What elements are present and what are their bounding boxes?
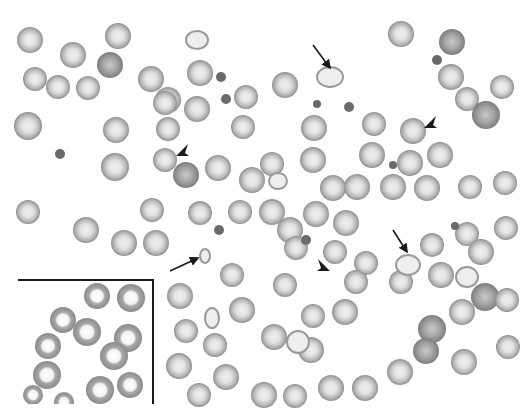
red-blood-cell — [153, 91, 177, 115]
red-blood-cell — [352, 375, 378, 401]
red-blood-cell — [439, 29, 465, 55]
red-blood-cell — [414, 175, 440, 201]
micrograph-canvas — [0, 0, 526, 412]
inset-red-blood-cell — [117, 372, 143, 398]
red-blood-cell — [187, 60, 213, 86]
inset-panel — [18, 280, 153, 412]
red-blood-cell — [303, 201, 329, 227]
platelet — [451, 222, 459, 230]
blood-smear-micrograph — [0, 0, 526, 412]
red-blood-cell — [228, 200, 252, 224]
red-blood-cell — [138, 66, 164, 92]
red-blood-cell — [323, 240, 347, 264]
inset-red-blood-cell — [100, 342, 128, 370]
red-blood-cell — [344, 270, 368, 294]
misshapen-cell-2 — [205, 308, 219, 328]
red-blood-cell — [387, 359, 413, 385]
red-blood-cell — [153, 148, 177, 172]
inset-red-blood-cell — [117, 284, 145, 312]
platelet — [216, 72, 226, 82]
inset-red-blood-cell — [86, 376, 114, 404]
inset-red-blood-cell — [35, 333, 61, 359]
spiculated-cell — [456, 267, 478, 287]
inset-red-blood-cell — [50, 307, 76, 333]
platelet — [344, 102, 354, 112]
platelet — [389, 161, 397, 169]
platelet — [301, 235, 311, 245]
red-blood-cell — [105, 23, 131, 49]
red-blood-cell — [234, 85, 258, 109]
red-blood-cell — [143, 230, 169, 256]
red-blood-cell — [220, 263, 244, 287]
teardrop-cell — [186, 31, 208, 49]
red-blood-cell — [46, 75, 70, 99]
red-blood-cell — [400, 118, 426, 144]
platelet — [55, 149, 65, 159]
red-blood-cell — [494, 216, 518, 240]
red-blood-cell — [344, 174, 370, 200]
red-blood-cell — [60, 42, 86, 68]
inset-red-blood-cell — [73, 318, 101, 346]
red-blood-cell — [272, 72, 298, 98]
red-blood-cell — [156, 117, 180, 141]
red-blood-cell — [205, 155, 231, 181]
red-blood-cell — [184, 96, 210, 122]
red-blood-cell — [73, 217, 99, 243]
red-blood-cell — [140, 198, 164, 222]
red-blood-cell — [388, 21, 414, 47]
red-blood-cell — [472, 101, 500, 129]
red-blood-cell — [320, 175, 346, 201]
inset-red-blood-cell — [84, 283, 110, 309]
red-blood-cell — [397, 150, 423, 176]
red-blood-cell — [167, 283, 193, 309]
red-blood-cell — [458, 175, 482, 199]
platelet — [214, 225, 224, 235]
red-blood-cell — [449, 299, 475, 325]
red-blood-cell — [166, 353, 192, 379]
red-blood-cell — [359, 142, 385, 168]
red-blood-cell — [333, 210, 359, 236]
red-blood-cell — [301, 115, 327, 141]
red-blood-cell — [332, 299, 358, 325]
red-blood-cell — [174, 319, 198, 343]
red-blood-cell — [490, 75, 514, 99]
red-blood-cell — [428, 262, 454, 288]
red-blood-cell — [17, 27, 43, 53]
red-blood-cell — [438, 64, 464, 90]
red-blood-cell — [451, 349, 477, 375]
red-blood-cell — [283, 384, 307, 408]
inset-red-blood-cell — [23, 385, 43, 405]
arrowed-cell-2 — [200, 249, 210, 263]
red-blood-cell — [111, 230, 137, 256]
red-blood-cell — [188, 201, 212, 225]
red-blood-cell — [301, 304, 325, 328]
red-blood-cell — [173, 162, 199, 188]
red-blood-cell — [495, 288, 519, 312]
red-blood-cell — [318, 375, 344, 401]
red-blood-cell — [231, 115, 255, 139]
arrowed-cell-1 — [317, 67, 343, 87]
platelet — [221, 94, 231, 104]
red-blood-cell — [261, 324, 287, 350]
red-blood-cell — [300, 147, 326, 173]
red-blood-cell — [229, 297, 255, 323]
red-blood-cell — [468, 239, 494, 265]
red-blood-cell — [239, 167, 265, 193]
red-blood-cell — [213, 364, 239, 390]
red-blood-cell — [273, 273, 297, 297]
red-blood-cell — [493, 171, 517, 195]
red-blood-cell — [101, 153, 129, 181]
red-blood-cell — [413, 338, 439, 364]
red-blood-cell — [97, 52, 123, 78]
misshapen-cell-3 — [287, 331, 309, 353]
inset-red-blood-cell — [33, 361, 61, 389]
red-blood-cell — [496, 335, 520, 359]
red-blood-cell — [76, 76, 100, 100]
platelet — [313, 100, 321, 108]
red-blood-cell — [362, 112, 386, 136]
arrowed-cell-3 — [396, 255, 420, 275]
red-blood-cell — [103, 117, 129, 143]
red-blood-cell — [251, 382, 277, 408]
red-blood-cell — [14, 112, 42, 140]
red-blood-cell — [187, 383, 211, 407]
